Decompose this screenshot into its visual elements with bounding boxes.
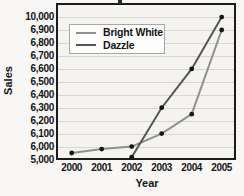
sales-line-chart: 5,0006,0006,1006,2006,3006,4006,5006,600… xyxy=(0,0,244,196)
data-point xyxy=(189,112,194,117)
legend-label: Dazzle xyxy=(103,40,134,51)
data-point xyxy=(69,151,74,156)
data-point xyxy=(129,144,134,149)
data-point xyxy=(189,67,194,72)
data-point xyxy=(159,131,164,136)
legend-item: Bright White xyxy=(76,27,164,38)
data-point xyxy=(219,28,224,33)
cropped-title-fragment xyxy=(118,0,122,3)
legend-label: Bright White xyxy=(103,27,163,38)
legend-swatch-dazzle xyxy=(76,44,96,47)
legend-item: Dazzle xyxy=(76,40,164,51)
data-point xyxy=(159,105,164,110)
data-point xyxy=(99,147,104,152)
data-point xyxy=(219,15,224,20)
legend-swatch-bright-white xyxy=(76,32,96,35)
legend: Bright WhiteDazzle xyxy=(69,24,165,54)
data-point xyxy=(129,155,134,160)
